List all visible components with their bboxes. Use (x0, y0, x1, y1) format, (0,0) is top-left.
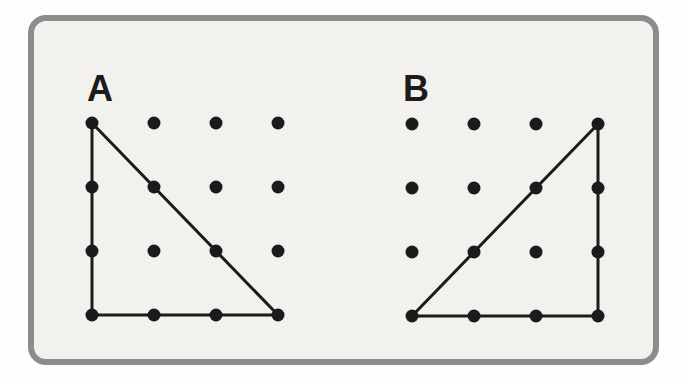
peg-dot (210, 181, 223, 194)
peg-dot (406, 118, 419, 131)
peg-dot (272, 181, 285, 194)
peg-dot (406, 310, 419, 323)
peg-dot (86, 245, 99, 258)
peg-dot (86, 181, 99, 194)
peg-dot (210, 309, 223, 322)
peg-dot (148, 245, 161, 258)
peg-dot (406, 246, 419, 259)
peg-dot (272, 245, 285, 258)
peg-dot (86, 117, 99, 130)
page: A B (0, 0, 687, 378)
peg-dot (210, 117, 223, 130)
triangle-b-outline (412, 124, 598, 316)
peg-dot (272, 117, 285, 130)
peg-dot (592, 118, 605, 131)
triangle-a-outline (92, 123, 278, 315)
peg-dot (148, 181, 161, 194)
peg-dot (530, 182, 543, 195)
peg-dot (468, 118, 481, 131)
peg-dot (148, 309, 161, 322)
peg-dot (210, 245, 223, 258)
peg-dot (148, 117, 161, 130)
peg-dot (530, 246, 543, 259)
peg-dot (592, 310, 605, 323)
figure-label-b: B (403, 71, 429, 107)
figure-label-a: A (87, 71, 113, 107)
peg-dot (406, 182, 419, 195)
peg-dot (468, 310, 481, 323)
peg-dot (272, 309, 285, 322)
peg-dot (592, 246, 605, 259)
peg-dot (530, 118, 543, 131)
peg-dot (530, 310, 543, 323)
peg-dot (86, 309, 99, 322)
geoboard-diagram (0, 0, 687, 378)
peg-dot (468, 182, 481, 195)
peg-dot (592, 182, 605, 195)
peg-dot (468, 246, 481, 259)
